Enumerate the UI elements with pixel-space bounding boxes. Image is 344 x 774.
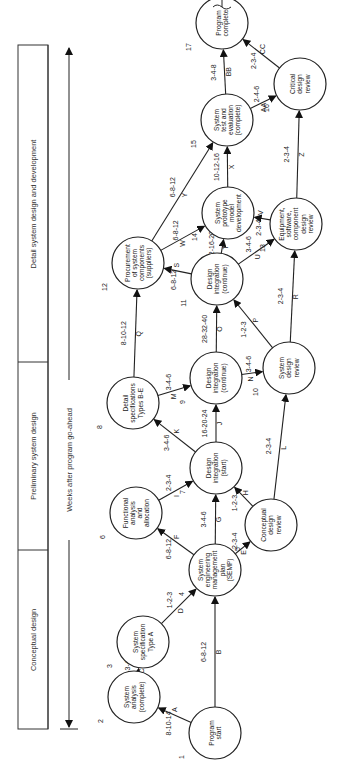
edge-m: M3-4-6 (158, 374, 190, 400)
node-title: Criticaldesignreview (289, 73, 310, 94)
node-number: 3 (106, 664, 113, 668)
event-node-10: Systemdesignreview10 (252, 342, 315, 396)
edge-r: R2-3-4 (277, 251, 299, 342)
node-number: 16 (263, 104, 270, 112)
edge-activity-label: BB (225, 67, 232, 77)
edge-time-estimate: 2-3-4 (265, 438, 272, 454)
edge-l: L2-3-4 (265, 395, 287, 499)
node-title: Systemdesignreview (278, 357, 299, 379)
event-node-16: Criticaldesignreview16 (263, 58, 326, 112)
edge-p: P1-2-3 (234, 300, 273, 348)
node-title: Systemanalysis(complete) (123, 681, 145, 712)
edge-time-estimate: 2-3-4 (250, 53, 257, 69)
node-number: 14 (191, 233, 198, 241)
edge-time-estimate: 1-2-3 (240, 321, 247, 337)
edge-time-estimate: 6-8-12 (172, 220, 179, 240)
edge-activity-label: A (171, 707, 178, 712)
edge-j: J16-20-24 (201, 405, 223, 442)
edge-k: K3-4-6 (154, 420, 195, 452)
edge-activity-label: T (222, 245, 229, 250)
node-number: 17 (185, 43, 192, 51)
edge-activity-label: X (228, 164, 235, 169)
edge-activity-label: S (173, 263, 180, 268)
edge-time-estimate: 2-3-4 (231, 533, 238, 549)
edge-time-estimate: 2-3-4 (283, 146, 290, 162)
edge-time-estimate: 28-32-40 (201, 315, 208, 343)
edge-time-estimate: 1-2-3 (231, 495, 238, 511)
event-node-4: Systemengineeringmanagementplan(SEMP)4 (178, 544, 241, 596)
edge-activity-label: W (179, 240, 186, 247)
edge-time-estimate: 3-4-6 (245, 356, 252, 372)
edge-h: H1-2-3 (231, 487, 253, 511)
node-number: 5 (234, 547, 241, 551)
event-node-5: Conceptualdesignreview5 (234, 499, 297, 551)
edge-x: X10-12-16 (213, 147, 235, 187)
edge-activity-label: I (173, 495, 180, 497)
nodes-layer: Programstart1Systemanalysis(complete)2Sy… (96, 0, 326, 759)
edge-g: G3-4-6 (200, 495, 222, 544)
edge-time-estimate: 6-8-12 (165, 539, 172, 559)
edge-bb: BB3-4-8 (210, 50, 232, 94)
phase-label-conceptual: Conceptual design (29, 609, 38, 671)
edge-time-estimate: 2-3-4 (165, 475, 172, 491)
edge-v: V2-3-4 (255, 210, 271, 236)
node-number: 4 (178, 592, 185, 596)
node-title: Systemtest andevaluation(complete) (213, 104, 243, 135)
edge-o: O28-32-40 (201, 306, 223, 352)
node-number: 15 (190, 140, 197, 148)
time-axis-label: Weeks after program go-ahead (65, 408, 74, 512)
edge-activity-label: B (215, 649, 222, 654)
edge-activity-label: E (240, 550, 247, 555)
node-number: 13 (259, 244, 266, 252)
edge-activity-label: F (173, 535, 180, 539)
edge-activity-label: CC (259, 44, 266, 54)
edge-time-estimate: 6-8-12 (170, 270, 177, 290)
edge-time-estimate: 8-10-14 (165, 711, 172, 735)
edge-time-estimate: 6-8-12 (169, 177, 176, 197)
edge-b: B6-8-12 (200, 597, 222, 707)
edge-time-estimate: 3-4-6 (165, 374, 172, 390)
edge-q: Q8-10-12 (120, 290, 143, 377)
time-axis: Weeks after program go-ahead (60, 48, 78, 729)
phase-label-preliminary: Preliminary system design (29, 412, 38, 500)
edge-activity-label: N (247, 376, 254, 381)
edge-activity-label: Q (135, 330, 143, 336)
node-title: Programcomplete (215, 9, 230, 36)
edge-activity-label: G (215, 517, 222, 522)
node-number: 12 (101, 283, 108, 291)
event-node-3: SystemspecificationType A3 (106, 616, 169, 668)
node-number: 9 (179, 400, 186, 404)
edge-activity-label: J (216, 422, 223, 426)
edge-u: U3-4-6 (238, 236, 274, 264)
edge-activity-label: Y (181, 192, 188, 197)
event-node-15: Systemtest andevaluation(complete)15 (190, 94, 253, 148)
node-number: 1 (178, 755, 185, 759)
event-node-12: Procurementof systemcomponents(suppliers… (101, 237, 164, 291)
edge-activity-label: R (292, 294, 299, 299)
event-node-1: Programstart1 (178, 707, 241, 759)
edge-activity-label: O (216, 326, 223, 332)
edge-s: S6-8-12 (164, 263, 191, 290)
edge-activity-label: P (252, 317, 259, 322)
node-number: 2 (97, 719, 104, 723)
edge-time-estimate: 10-12-16 (213, 153, 220, 181)
node-number: 7 (179, 490, 186, 494)
edge-n: N3-4-6 (242, 356, 262, 382)
edge-time-estimate: 3-4-8 (210, 64, 217, 80)
edge-cc: CC2-3-4 (243, 40, 279, 69)
edge-activity-label: L (280, 446, 287, 450)
edge-activity-label: H (242, 490, 249, 495)
edge-f: F6-8-12 (158, 529, 194, 559)
edge-time-estimate: 2-3-4 (255, 219, 262, 235)
phase-label-detail: Detail system design and development (29, 139, 38, 269)
edge-i: I2-3-4 (159, 475, 193, 501)
event-node-2: Systemanalysis(complete)2 (97, 671, 160, 723)
event-node-9: Designintegration(continue)9 (179, 352, 242, 404)
edge-time-estimate: 2-3-4 (277, 288, 284, 304)
edge-z: Z2-3-4 (283, 111, 305, 198)
edge-activity-label: V (257, 210, 264, 215)
edge-activity-label: Z (298, 152, 305, 157)
event-node-11: Designintegration(continue)11 (180, 253, 243, 307)
edge-activity-label: K (173, 428, 180, 433)
edge-time-estimate: 8-10-12 (120, 321, 127, 345)
